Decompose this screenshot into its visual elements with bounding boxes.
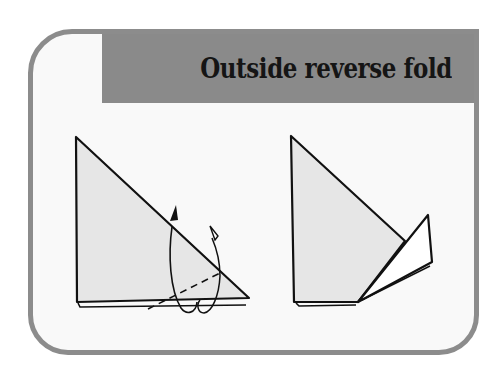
arrowhead-filled-icon bbox=[170, 205, 178, 221]
after-fold-diagram bbox=[291, 136, 432, 306]
before-fold-diagram bbox=[76, 137, 249, 313]
paper-bottom-edge bbox=[78, 303, 246, 307]
arrowhead-open-icon bbox=[210, 226, 218, 240]
paper-bottom-edge bbox=[296, 303, 356, 306]
paper-triangle bbox=[76, 137, 249, 302]
